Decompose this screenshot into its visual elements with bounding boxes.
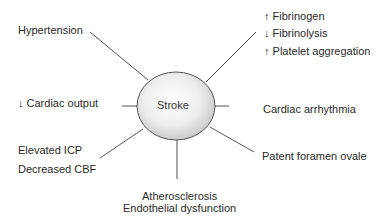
label-endothelial-dysfunction: Endothelial dysfunction <box>123 202 236 215</box>
line-icp <box>100 129 143 158</box>
line-pfo <box>210 127 254 152</box>
label-hypertension: Hypertension <box>18 24 83 37</box>
line-hypertension <box>90 32 148 80</box>
line-coagulation <box>206 32 256 82</box>
stroke-risk-diagram: Stroke Hypertension ↑ Fibrinogen ↓ Fibri… <box>0 0 383 220</box>
label-cardiac-output: ↓ Cardiac output <box>18 97 98 110</box>
label-fibrinogen: ↑ Fibrinogen <box>264 10 325 23</box>
label-cardiac-arrhythmia: Cardiac arrhythmia <box>263 103 356 116</box>
label-elevated-icp: Elevated ICP <box>18 144 82 157</box>
label-patent-foramen-ovale: Patent foramen ovale <box>262 150 367 163</box>
label-decreased-cbf: Decreased CBF <box>18 163 96 176</box>
label-platelet-aggregation: ↑ Platelet aggregation <box>264 45 370 58</box>
label-fibrinolysis: ↓ Fibrinolysis <box>264 27 328 40</box>
center-label: Stroke <box>157 99 189 112</box>
